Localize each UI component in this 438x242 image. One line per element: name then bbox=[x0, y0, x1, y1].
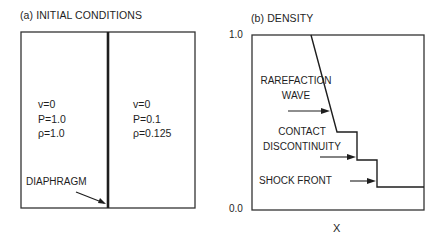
right-velocity: v=0 bbox=[133, 97, 171, 112]
y-min-label: 0.0 bbox=[229, 203, 243, 214]
y-max-label: 1.0 bbox=[229, 29, 243, 40]
panel-b-title: (b) DENSITY bbox=[251, 12, 313, 24]
left-density: ρ=1.0 bbox=[38, 126, 66, 141]
rarefaction-arrow-icon bbox=[321, 108, 330, 114]
right-state: v=0 P=0.1 ρ=0.125 bbox=[133, 97, 171, 141]
right-pressure: P=0.1 bbox=[133, 112, 171, 127]
left-velocity: v=0 bbox=[38, 97, 66, 112]
shock-arrow-icon bbox=[367, 178, 376, 184]
rarefaction-label: RAREFACTION WAVE bbox=[256, 73, 336, 103]
rarefaction-label-line1: RAREFACTION bbox=[256, 73, 336, 88]
diaphragm-arrowhead-icon bbox=[98, 198, 106, 204]
x-axis-label: X bbox=[333, 222, 340, 234]
contact-label-line1: CONTACT bbox=[254, 124, 350, 139]
contact-label-line2: DISCONTINUITY bbox=[254, 139, 350, 154]
contact-arrow-icon bbox=[347, 154, 356, 160]
left-pressure: P=1.0 bbox=[38, 112, 66, 127]
right-density: ρ=0.125 bbox=[133, 126, 171, 141]
contact-label: CONTACT DISCONTINUITY bbox=[254, 124, 350, 154]
left-state: v=0 P=1.0 ρ=1.0 bbox=[38, 97, 66, 141]
rarefaction-label-line2: WAVE bbox=[256, 88, 336, 103]
shock-label: SHOCK FRONT bbox=[259, 175, 332, 186]
diaphragm-label: DIAPHRAGM bbox=[26, 176, 87, 187]
